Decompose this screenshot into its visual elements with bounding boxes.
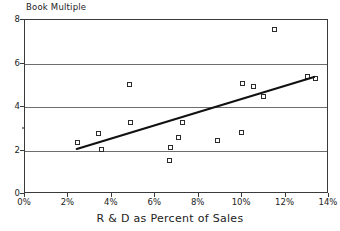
x-tick-label: 10% xyxy=(228,198,254,207)
x-tick-mark xyxy=(111,193,112,197)
y-tick-mark xyxy=(20,193,24,194)
chart-title: Book Multiple xyxy=(26,2,86,12)
x-axis-title: R & D as Percent of Sales xyxy=(0,212,340,225)
x-tick-mark xyxy=(285,193,286,197)
x-tick-label: 4% xyxy=(98,198,124,207)
x-tick-label: 2% xyxy=(54,198,80,207)
scatter-chart-figure: Book Multiple 02468 0%2%4%6%8%10%12%14% … xyxy=(0,0,340,231)
x-tick-mark xyxy=(154,193,155,197)
trendline xyxy=(77,77,314,149)
plot-area xyxy=(24,19,328,193)
y-tick-label: 6 xyxy=(2,59,20,68)
x-tick-mark xyxy=(67,193,68,197)
x-tick-label: 12% xyxy=(272,198,298,207)
x-tick-mark xyxy=(328,193,329,197)
x-tick-label: 0% xyxy=(11,198,37,207)
x-tick-mark xyxy=(241,193,242,197)
x-tick-label: 14% xyxy=(315,198,340,207)
x-tick-mark xyxy=(198,193,199,197)
y-tick-label: 0 xyxy=(2,189,20,198)
stray-ink-mark xyxy=(22,127,24,129)
y-tick-label: 4 xyxy=(2,102,20,111)
y-tick-label: 8 xyxy=(2,15,20,24)
y-tick-label: 2 xyxy=(2,146,20,155)
x-tick-label: 6% xyxy=(141,198,167,207)
trendline-svg xyxy=(25,20,327,192)
x-tick-mark xyxy=(24,193,25,197)
x-tick-label: 8% xyxy=(185,198,211,207)
